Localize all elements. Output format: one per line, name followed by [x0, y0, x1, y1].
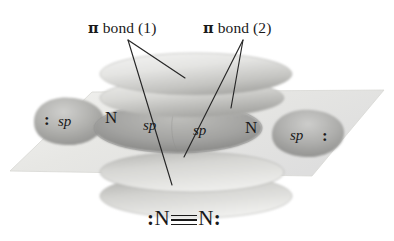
pi-bond-upper-lobes [100, 53, 292, 117]
lewis-right-dots: : [214, 206, 222, 230]
lewis-left-dots: : [147, 206, 155, 230]
lone-pair-left: : [44, 111, 50, 128]
pi-symbol-2: π [203, 19, 214, 36]
pi-bond-2-text: bond (2) [214, 19, 272, 36]
nitrogen-label-right: N [245, 119, 257, 136]
pi-bond-1-text: bond (1) [99, 19, 157, 36]
pi-symbol-1: π [88, 19, 99, 36]
sp-label-left-outer: sp [58, 114, 71, 129]
lone-pair-right: : [322, 127, 328, 144]
lewis-right-atom: N [198, 206, 214, 230]
pi-bond-2-label: π bond (2) [203, 20, 271, 36]
triple-bond-icon [171, 215, 197, 226]
lewis-left-atom: N [155, 206, 171, 230]
figure-canvas: π bond (1) π bond (2) : sp N sp sp N sp … [0, 0, 394, 241]
sp-label-left-inner: sp [143, 118, 156, 133]
sp-label-right-inner: sp [193, 123, 206, 138]
pi-bond-1-label: π bond (1) [88, 20, 156, 36]
nitrogen-label-left: N [105, 109, 117, 126]
sp-label-right-outer: sp [290, 128, 303, 143]
lewis-structure: :NN: [147, 208, 221, 229]
